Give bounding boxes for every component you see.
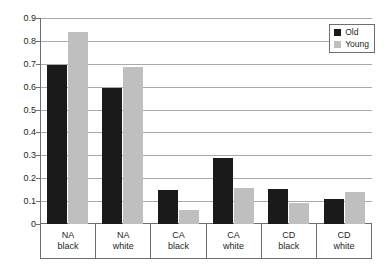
y-axis-label: 0.5 <box>2 106 36 115</box>
legend-swatch-old-icon <box>334 29 341 36</box>
y-axis-label: 0.7 <box>2 60 36 69</box>
chart-legend: Old Young <box>329 24 375 53</box>
bar-old <box>213 158 233 224</box>
bar-old <box>47 65 67 224</box>
legend-item-young: Young <box>334 39 369 49</box>
bar-chart-figure: 0.90.80.70.60.50.40.30.20.10 NAblackNAwh… <box>0 0 385 276</box>
category-label: NAwhite <box>95 223 150 259</box>
y-axis-label: 0.4 <box>2 128 36 137</box>
category-label: CDblack <box>261 223 316 259</box>
category-label-line: CA <box>227 230 240 241</box>
category-label-line: black <box>58 241 79 252</box>
bar-old <box>158 190 178 224</box>
category-label: CAblack <box>150 223 205 259</box>
category-label-line: CA <box>172 230 185 241</box>
category-label-line: NA <box>117 230 130 241</box>
bar-group <box>206 18 261 224</box>
y-axis-label: 0.1 <box>2 197 36 206</box>
bar-young <box>345 192 365 224</box>
y-axis-label: 0.2 <box>2 174 36 183</box>
category-label-line: white <box>333 241 354 252</box>
y-axis-label: 0.6 <box>2 83 36 92</box>
legend-label-old: Old <box>345 27 358 37</box>
category-label-line: CD <box>282 230 295 241</box>
category-label: CAwhite <box>206 223 261 259</box>
y-axis-label: 0 <box>2 220 36 229</box>
category-label-line: CD <box>337 230 350 241</box>
figure-caption <box>8 264 380 276</box>
category-label-line: black <box>278 241 299 252</box>
legend-label-young: Young <box>345 39 369 49</box>
category-label-line: black <box>168 241 189 252</box>
legend-item-old: Old <box>334 27 369 37</box>
bar-old <box>268 189 288 224</box>
bar-group <box>95 18 150 224</box>
bar-groups <box>40 18 372 224</box>
bar-young <box>289 203 309 224</box>
y-axis-label: 0.8 <box>2 37 36 46</box>
bar-young <box>68 32 88 224</box>
bar-old <box>324 199 344 224</box>
bar-old <box>102 88 122 224</box>
category-label: NAblack <box>40 223 95 259</box>
category-label-line: white <box>223 241 244 252</box>
category-label: CDwhite <box>316 223 372 259</box>
category-label-line: NA <box>62 230 75 241</box>
bar-group <box>261 18 316 224</box>
bar-young <box>123 67 143 224</box>
y-axis-label: 0.3 <box>2 151 36 160</box>
category-label-row: NAblackNAwhiteCAblackCAwhiteCDblackCDwhi… <box>40 223 372 259</box>
legend-swatch-young-icon <box>334 41 341 48</box>
bar-young <box>179 210 199 224</box>
bar-group <box>40 18 95 224</box>
bar-group <box>151 18 206 224</box>
y-axis-label: 0.9 <box>2 14 36 23</box>
bar-young <box>234 188 254 224</box>
category-label-line: white <box>113 241 134 252</box>
